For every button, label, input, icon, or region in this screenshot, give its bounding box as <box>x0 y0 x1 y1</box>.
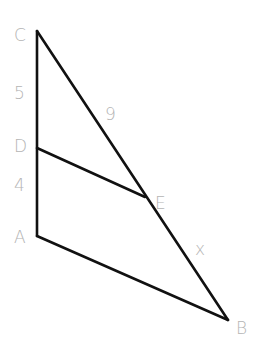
vertex-label-B: B <box>236 318 247 338</box>
measure-label-CE: 9 <box>105 104 116 124</box>
segment-DE <box>37 148 145 197</box>
vertex-label-D: D <box>14 136 27 156</box>
vertex-label-E: E <box>155 193 166 213</box>
measure-label-DA: 4 <box>14 175 25 195</box>
measure-label-CD: 5 <box>14 83 25 103</box>
triangle-diagram: C D A E B 5 4 9 x <box>0 0 256 351</box>
vertex-label-A: A <box>14 227 26 247</box>
vertex-label-C: C <box>14 25 26 45</box>
measure-label-EB: x <box>195 239 205 259</box>
